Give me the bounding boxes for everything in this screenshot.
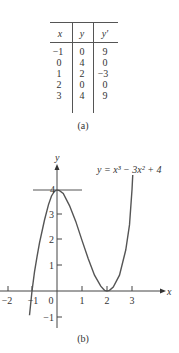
y-tick-label: 4	[50, 184, 55, 195]
y-tick-label: 3	[49, 209, 54, 220]
x-tick-label: 3	[130, 295, 135, 306]
y-tick-label: 2	[49, 234, 54, 245]
caption-b: (b)	[71, 333, 95, 344]
y-tick-label: −1	[43, 312, 54, 323]
x-tick-label: −2	[2, 295, 13, 306]
y-tick-label: 1	[49, 260, 54, 271]
y-axis-arrow-icon	[55, 164, 60, 170]
equation-label: y = x³ − 3x² + 4	[96, 164, 162, 175]
x-tick-label: 1	[80, 295, 85, 306]
x-tick-label: 2	[105, 295, 110, 306]
y-axis-label: y	[54, 152, 60, 163]
x-tick-labels: −2 −1 0 1 2 3	[2, 295, 135, 306]
x-tick-label: −1	[28, 295, 39, 306]
x-tick-label: 0	[49, 295, 54, 306]
x-axis-arrow-icon	[160, 289, 166, 294]
cubic-graph: −2 −1 0 1 2 3 4 3 2 1 −1 x y y = x³ − 3x…	[0, 0, 179, 353]
y-ticks	[57, 214, 62, 317]
x-axis-label: x	[166, 286, 172, 297]
